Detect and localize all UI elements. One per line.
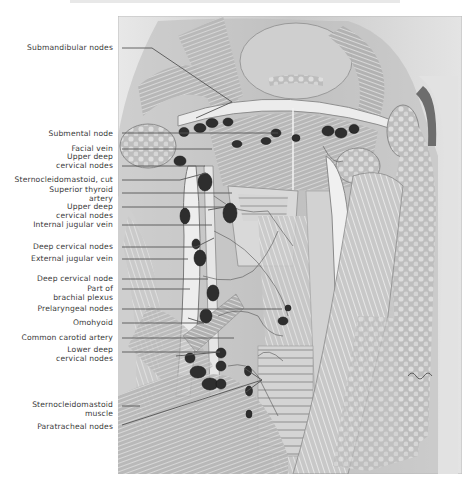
label-sternocleidomastoid-muscle: Sternocleidomastoidmuscle — [32, 401, 113, 418]
label-superior-thyroid-artery: Superior thyroidartery — [49, 186, 113, 203]
label-lower-deep-cervical-nodes: Lower deepcervical nodes — [56, 346, 113, 363]
label-deep-cervical-node: Deep cervical node — [37, 275, 113, 284]
label-paratracheal-nodes: Paratracheal nodes — [37, 423, 113, 432]
label-upper-deep-cervical-nodes-2: Upper deepcervical nodes — [56, 203, 113, 220]
label-sternocleidomastoid-cut: Sternocleidomastoid, cut — [15, 176, 113, 185]
label-prelaryngeal-nodes: Prelaryngeal nodes — [37, 305, 113, 314]
anatomical-figure: Submandibular nodes Submental node Facia… — [0, 0, 474, 484]
label-upper-deep-cervical-nodes-1: Upper deepcervical nodes — [56, 153, 113, 170]
label-submandibular-nodes: Submandibular nodes — [27, 44, 113, 53]
label-common-carotid-artery: Common carotid artery — [21, 334, 113, 343]
label-external-jugular-vein: External jugular vein — [31, 255, 113, 264]
label-deep-cervical-nodes: Deep cervical nodes — [33, 243, 113, 252]
label-submental-node: Submental node — [48, 130, 113, 139]
label-part-of-brachial-plexus: Part ofbrachial plexus — [53, 285, 113, 302]
label-column: Submandibular nodes Submental node Facia… — [0, 0, 474, 484]
label-internal-jugular-vein: Internal jugular vein — [33, 221, 113, 230]
label-omohyoid: Omohyoid — [73, 319, 113, 328]
